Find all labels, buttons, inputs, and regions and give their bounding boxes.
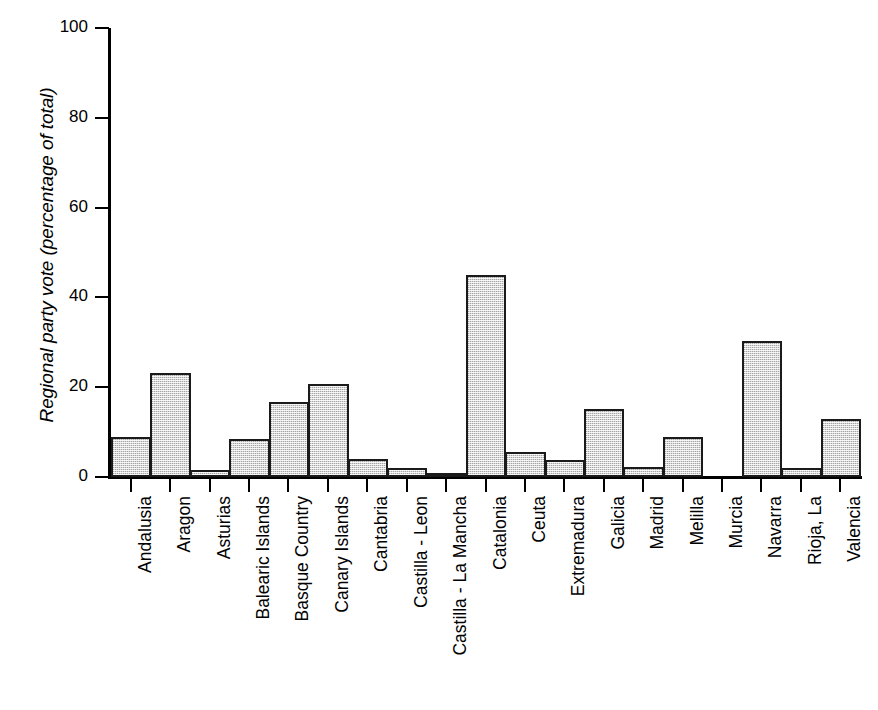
x-tick-5 bbox=[327, 479, 329, 492]
x-axis-label-cantabria: Cantabria bbox=[373, 496, 391, 572]
x-tick-0 bbox=[130, 479, 132, 492]
x-label-text: Melilla bbox=[689, 496, 707, 546]
x-label-text: Madrid bbox=[649, 496, 667, 550]
y-tick-60: 60 bbox=[95, 207, 109, 209]
x-label-text: Murcia bbox=[728, 496, 746, 549]
y-tick-label-20: 20 bbox=[69, 376, 88, 396]
x-axis-label-basque-country: Basque Country bbox=[294, 496, 312, 622]
x-tick-4 bbox=[287, 479, 289, 492]
x-label-text: Basque Country bbox=[294, 496, 312, 622]
x-tick-15 bbox=[721, 479, 723, 492]
x-label-text: Canary Islands bbox=[334, 496, 352, 613]
bar-canary-islands bbox=[308, 384, 348, 477]
x-tick-12 bbox=[603, 479, 605, 492]
x-axis-label-ceuta: Ceuta bbox=[531, 496, 549, 543]
x-label-text: Extremadura bbox=[570, 496, 588, 596]
x-axis-label-murcia: Murcia bbox=[728, 496, 746, 549]
x-tick-17 bbox=[800, 479, 802, 492]
y-axis-title: Regional party vote (percentage of total… bbox=[36, 40, 58, 470]
bar-andalusia bbox=[111, 437, 151, 477]
x-label-text: Ceuta bbox=[531, 496, 549, 543]
x-axis-label-canary-islands: Canary Islands bbox=[334, 496, 352, 613]
x-axis-label-valencia: Valencia bbox=[846, 496, 864, 562]
y-tick-20: 20 bbox=[95, 386, 109, 388]
bar-rioja-la bbox=[781, 468, 821, 477]
y-tick-0: 0 bbox=[95, 476, 109, 478]
x-axis-label-aragon: Aragon bbox=[176, 496, 194, 552]
x-label-text: Rioja, La bbox=[807, 496, 825, 565]
x-axis-label-rioja-la: Rioja, La bbox=[807, 496, 825, 565]
x-axis-label-asturias: Asturias bbox=[216, 496, 234, 559]
bar-balearic-islands bbox=[229, 439, 269, 477]
x-label-text: Asturias bbox=[216, 496, 234, 559]
y-tick-100: 100 bbox=[95, 27, 109, 29]
y-tick-40: 40 bbox=[95, 296, 109, 298]
bar-ceuta bbox=[505, 452, 545, 477]
x-tick-10 bbox=[524, 479, 526, 492]
bar-galicia bbox=[584, 409, 624, 477]
bar-navarra bbox=[742, 341, 782, 477]
y-tick-label-0: 0 bbox=[79, 466, 88, 486]
x-label-text: Castilla - Leon bbox=[413, 496, 431, 608]
bar-valencia bbox=[821, 419, 861, 477]
x-tick-8 bbox=[445, 479, 447, 492]
x-tick-2 bbox=[209, 479, 211, 492]
bar-asturias bbox=[190, 470, 230, 477]
x-label-text: Valencia bbox=[846, 496, 864, 562]
bar-cantabria bbox=[348, 459, 388, 477]
x-axis-label-melilla: Melilla bbox=[689, 496, 707, 546]
y-tick-label-40: 40 bbox=[69, 286, 88, 306]
x-label-text: Catalonia bbox=[492, 496, 510, 570]
x-axis-label-galicia: Galicia bbox=[610, 496, 628, 550]
bar-chart: Regional party vote (percentage of total… bbox=[0, 0, 878, 710]
x-tick-14 bbox=[682, 479, 684, 492]
bar-castilla-leon bbox=[387, 468, 427, 477]
bar-aragon bbox=[150, 373, 190, 477]
x-axis-label-castilla-leon: Castilla - Leon bbox=[413, 496, 431, 608]
plot-area bbox=[111, 28, 860, 477]
y-tick-label-80: 80 bbox=[69, 107, 88, 127]
x-tick-9 bbox=[485, 479, 487, 492]
x-axis-label-extremadura: Extremadura bbox=[570, 496, 588, 596]
bar-madrid bbox=[623, 467, 663, 477]
bar-catalonia bbox=[466, 275, 506, 477]
x-axis-label-balearic-islands: Balearic Islands bbox=[255, 496, 273, 620]
x-tick-11 bbox=[563, 479, 565, 492]
x-tick-7 bbox=[406, 479, 408, 492]
x-tick-13 bbox=[642, 479, 644, 492]
x-label-text: Galicia bbox=[610, 496, 628, 550]
x-tick-16 bbox=[760, 479, 762, 492]
x-label-text: Aragon bbox=[176, 496, 194, 552]
bar-melilla bbox=[663, 437, 703, 477]
x-tick-6 bbox=[366, 479, 368, 492]
x-axis-label-andalusia: Andalusia bbox=[137, 496, 155, 573]
x-label-text: Andalusia bbox=[137, 496, 155, 573]
x-tick-3 bbox=[248, 479, 250, 492]
bar-basque-country bbox=[269, 402, 309, 477]
bar-extremadura bbox=[545, 460, 585, 477]
y-tick-label-60: 60 bbox=[69, 197, 88, 217]
x-axis-label-castilla-la-mancha: Castilla - La Mancha bbox=[452, 496, 470, 656]
y-tick-80: 80 bbox=[95, 117, 109, 119]
y-tick-label-100: 100 bbox=[60, 17, 88, 37]
x-tick-1 bbox=[169, 479, 171, 492]
x-axis-label-catalonia: Catalonia bbox=[492, 496, 510, 570]
x-label-text: Navarra bbox=[767, 496, 785, 558]
x-tick-18 bbox=[839, 479, 841, 492]
x-label-text: Castilla - La Mancha bbox=[452, 496, 470, 656]
x-label-text: Balearic Islands bbox=[255, 496, 273, 620]
bar-castilla-la-mancha bbox=[426, 473, 466, 477]
x-label-text: Cantabria bbox=[373, 496, 391, 572]
x-axis-label-navarra: Navarra bbox=[767, 496, 785, 558]
x-axis-label-madrid: Madrid bbox=[649, 496, 667, 550]
